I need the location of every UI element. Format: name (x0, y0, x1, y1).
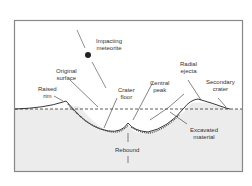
label-excavated-material: Excavated material (190, 127, 218, 140)
trajectory-arrow (92, 62, 106, 88)
trajectory-line (77, 30, 85, 48)
label-radial-ejecta: Radial ejecta (180, 61, 197, 74)
label-crater-floor: Crater floor (118, 87, 135, 100)
label-raised-rim: Raised rim (38, 86, 57, 99)
meteorite-icon (85, 52, 91, 58)
label-secondary-crater: Secondary crater (206, 79, 235, 92)
label-rebound: Rebound (115, 147, 139, 154)
label-original-surface: Original surface (56, 68, 77, 81)
label-central-peak: Central peak (150, 80, 169, 93)
label-impacting-meteorite: Impacting meteorite (96, 38, 122, 51)
